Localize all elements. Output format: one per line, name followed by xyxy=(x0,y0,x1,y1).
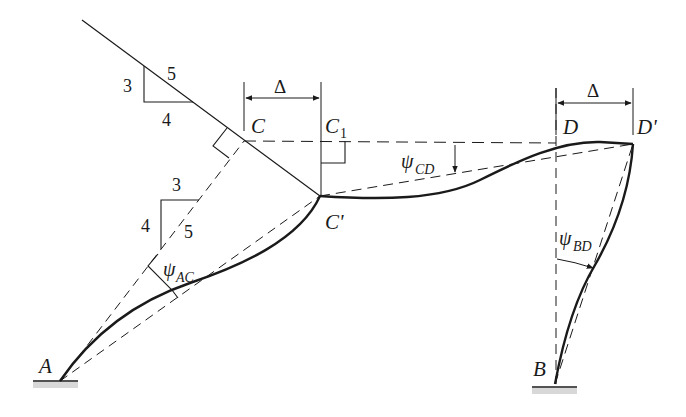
support-A xyxy=(33,381,78,388)
psi-AC-symbol: ψ xyxy=(163,258,176,281)
psi-BD-arrow xyxy=(557,259,593,268)
label-B: B xyxy=(533,357,546,381)
psi-BD-symbol: ψ xyxy=(559,227,572,250)
label-A: A xyxy=(37,354,52,378)
frame-deflection-diagram: 3 5 4 3 4 5 ψ AC Δ C C 1 C' ψ CD Δ D D' xyxy=(0,0,686,417)
inclined-member-line xyxy=(82,20,320,196)
right-angle-mark-C xyxy=(213,128,229,158)
slope-upper-run: 4 xyxy=(162,110,171,130)
label-D: D xyxy=(562,115,578,139)
chord-Cprime-Dprime-dashed xyxy=(320,144,633,196)
label-D-prime: D' xyxy=(636,115,657,139)
psi-CD-subscript: CD xyxy=(415,162,434,177)
chord-B-Dprime-dashed xyxy=(555,144,633,384)
original-beam-CD-dashed xyxy=(244,141,556,143)
support-B xyxy=(532,387,577,394)
slope-lower-top: 3 xyxy=(172,175,181,195)
slope-lower-side: 4 xyxy=(141,216,150,236)
right-angle-mark-C1 xyxy=(321,141,345,163)
deflected-beam-CD xyxy=(320,142,633,198)
label-C1-subscript: 1 xyxy=(340,126,347,141)
slope-upper-rise: 3 xyxy=(123,76,132,96)
label-C: C xyxy=(251,114,266,138)
label-C-prime: C' xyxy=(325,210,344,234)
delta-label-D: Δ xyxy=(587,80,599,101)
slope-upper-hyp: 5 xyxy=(167,64,176,84)
slope-lower-hyp: 5 xyxy=(184,222,193,242)
psi-CD-symbol: ψ xyxy=(401,150,414,173)
label-C1: C xyxy=(325,114,340,138)
delta-label-C: Δ xyxy=(274,76,286,97)
psi-BD-subscript: BD xyxy=(573,239,592,254)
